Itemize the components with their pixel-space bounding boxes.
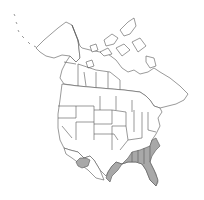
aleutians: [14, 14, 36, 47]
landmass-outline: [14, 14, 188, 186]
range-map: [0, 0, 204, 200]
